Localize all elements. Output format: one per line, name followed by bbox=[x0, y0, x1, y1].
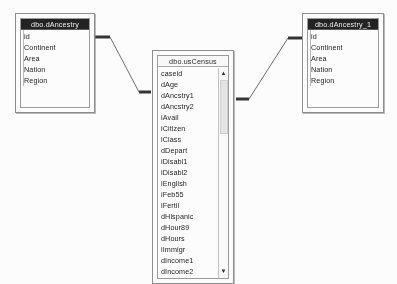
database-diagram-canvas[interactable]: dbo.dAncestry id Continent Area Nation R… bbox=[0, 0, 397, 284]
table-body-dancestry-1: dbo.dAncestry_1 id Continent Area Nation… bbox=[307, 18, 379, 108]
field-row[interactable]: Region bbox=[22, 75, 89, 86]
table-window-dancestry[interactable]: dbo.dAncestry id Continent Area Nation R… bbox=[15, 13, 95, 113]
relationship-line-uscensus-dancestry1 bbox=[236, 38, 302, 99]
field-row[interactable]: id bbox=[22, 31, 89, 42]
field-row[interactable]: id bbox=[309, 31, 378, 42]
table-body-dancestry: dbo.dAncestry id Continent Area Nation R… bbox=[20, 18, 90, 108]
vertical-scrollbar[interactable]: ▲ ▼ bbox=[218, 68, 228, 278]
table-window-dancestry-1[interactable]: dbo.dAncestry_1 id Continent Area Nation… bbox=[302, 13, 384, 113]
field-row[interactable]: Nation bbox=[22, 64, 89, 75]
field-row[interactable]: Area bbox=[309, 53, 378, 64]
table-window-uscensus[interactable]: dbo.usCensus caseid dAge dAncstry1 dAncs… bbox=[152, 50, 234, 284]
field-row[interactable]: Region bbox=[309, 75, 378, 86]
field-row[interactable]: Continent bbox=[309, 42, 378, 53]
table-body-uscensus: dbo.usCensus caseid dAge dAncstry1 dAncs… bbox=[157, 55, 229, 279]
table-title-dancestry-1[interactable]: dbo.dAncestry_1 bbox=[308, 19, 378, 30]
scroll-up-arrow[interactable]: ▲ bbox=[219, 69, 228, 78]
field-row[interactable]: Continent bbox=[22, 42, 89, 53]
field-list-dancestry[interactable]: id Continent Area Nation Region bbox=[21, 30, 89, 86]
column-rule bbox=[23, 30, 24, 86]
scroll-thumb[interactable] bbox=[220, 80, 228, 134]
field-list-dancestry-1[interactable]: id Continent Area Nation Region bbox=[308, 30, 378, 86]
field-row[interactable]: Nation bbox=[309, 64, 378, 75]
table-title-uscensus[interactable]: dbo.usCensus bbox=[158, 56, 228, 67]
table-title-dancestry[interactable]: dbo.dAncestry bbox=[21, 19, 89, 30]
field-row[interactable]: Area bbox=[22, 53, 89, 64]
column-rule bbox=[310, 30, 311, 86]
relationship-line-dancestry-uscensus bbox=[94, 37, 151, 92]
scroll-down-arrow[interactable]: ▼ bbox=[219, 267, 228, 276]
